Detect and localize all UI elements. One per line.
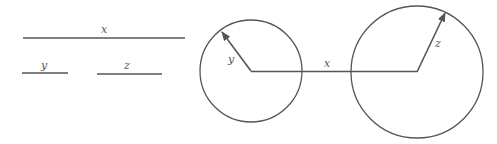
- diagram-canvas: x y z y x z: [0, 0, 497, 144]
- left-radius-arrow: [222, 32, 251, 71]
- left-radius-label: y: [227, 53, 235, 66]
- legend: x y z: [22, 23, 185, 74]
- right-radius-label: z: [434, 37, 441, 50]
- connector-group: x: [251, 57, 417, 72]
- connector-label: x: [324, 57, 331, 70]
- legend-z-label: z: [123, 59, 130, 72]
- legend-y-label: y: [40, 59, 48, 72]
- legend-x-label: x: [101, 23, 108, 36]
